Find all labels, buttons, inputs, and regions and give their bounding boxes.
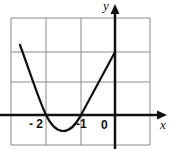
graph-canvas: y x - 2 -1 0 <box>0 0 170 149</box>
tick-label-neg1: -1 <box>76 117 87 131</box>
x-axis-label: x <box>159 117 166 132</box>
tick-label-neg2: - 2 <box>29 117 43 131</box>
y-axis <box>111 4 120 149</box>
tick-label-zero: 0 <box>101 118 108 132</box>
y-axis-arrow-icon <box>111 4 120 14</box>
y-axis-label: y <box>101 0 109 13</box>
